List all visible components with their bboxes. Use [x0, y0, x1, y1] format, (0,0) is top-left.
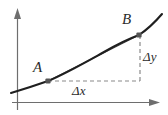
x-axis	[12, 99, 160, 106]
point-marker-a	[45, 78, 50, 83]
x-axis-arrowhead-icon	[149, 99, 160, 106]
y-axis	[14, 8, 21, 110]
label-delta-x: Δx	[72, 84, 85, 97]
label-point-a: A	[33, 60, 42, 75]
figure-container: A B Δx Δy	[0, 0, 168, 115]
label-delta-y: Δy	[143, 50, 156, 63]
y-axis-arrowhead-icon	[14, 8, 21, 19]
label-point-b: B	[122, 12, 131, 27]
point-marker-b	[136, 32, 141, 37]
